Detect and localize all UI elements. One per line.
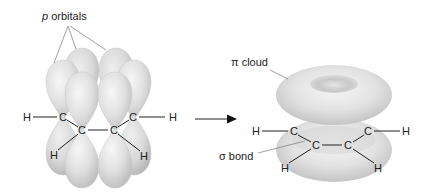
leader-line	[270, 70, 288, 79]
atom-h: H	[402, 125, 410, 137]
atom-h: H	[169, 111, 177, 123]
atom-h: H	[50, 149, 58, 161]
atom-h: H	[140, 150, 148, 162]
reaction-arrow	[195, 115, 237, 124]
orbital-lobe	[98, 72, 132, 132]
atom-c: C	[344, 139, 352, 151]
p-orbitals-label: p orbitals	[41, 10, 87, 22]
diagram-canvas: p orbitals H C C C C H H H π	[0, 0, 429, 195]
atom-c: C	[78, 124, 86, 136]
atom-c: C	[364, 125, 372, 137]
pi-cloud-label: π cloud	[231, 56, 268, 68]
upper-pi-lobe	[276, 65, 392, 125]
atom-c: C	[59, 111, 67, 123]
leader-line	[54, 26, 68, 63]
atom-h: H	[281, 162, 289, 174]
atom-c: C	[110, 124, 118, 136]
upper-pi-hole	[310, 75, 358, 93]
atom-c: C	[312, 139, 320, 151]
pi-cloud-label-group: π cloud	[231, 56, 288, 79]
orbital-lobe	[65, 72, 99, 132]
sigma-bond-label: σ bond	[219, 150, 253, 162]
atom-h: H	[23, 111, 31, 123]
atom-c: C	[129, 111, 137, 123]
arrow-head-icon	[227, 115, 237, 124]
atom-h: H	[374, 162, 382, 174]
atom-h: H	[252, 125, 260, 137]
atom-c: C	[290, 125, 298, 137]
